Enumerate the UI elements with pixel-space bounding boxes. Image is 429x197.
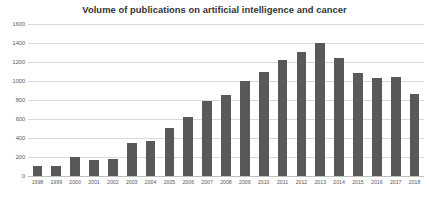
bar-slot [240, 24, 250, 176]
bar-slot [33, 24, 43, 176]
x-axis-tick-label: 2009 [235, 178, 254, 186]
bar[interactable] [165, 128, 175, 176]
y-axis-tick-label: 400 [0, 135, 25, 141]
bar[interactable] [297, 52, 307, 176]
bar[interactable] [70, 157, 80, 176]
y-axis-tick-label: 1600 [0, 21, 25, 27]
bar-slot [165, 24, 175, 176]
bar[interactable] [183, 117, 193, 176]
bar-slot [278, 24, 288, 176]
bar-slot [146, 24, 156, 176]
x-axis-tick-label: 2008 [217, 178, 236, 186]
bar[interactable] [89, 160, 99, 176]
x-axis-tick-label: 2012 [292, 178, 311, 186]
x-axis-tick-label: 2013 [311, 178, 330, 186]
x-axis-tick-label: 2000 [66, 178, 85, 186]
bar[interactable] [353, 73, 363, 176]
bar[interactable] [334, 58, 344, 176]
y-axis-tick-label: 1200 [0, 59, 25, 65]
bar-slot [89, 24, 99, 176]
bar[interactable] [127, 143, 137, 176]
bar[interactable] [146, 141, 156, 176]
bar[interactable] [372, 78, 382, 176]
bar-slot [353, 24, 363, 176]
bar-slot [297, 24, 307, 176]
y-axis-tick-label: 0 [0, 173, 25, 179]
y-axis-tick-label: 800 [0, 97, 25, 103]
x-axis-tick-label: 2006 [179, 178, 198, 186]
bar[interactable] [315, 43, 325, 176]
bar-chart: Volume of publications on artificial int… [0, 0, 429, 197]
y-axis-tick-label: 1000 [0, 78, 25, 84]
x-axis-tick-labels: 1998199920002001200220032004200520062007… [28, 178, 424, 192]
bar[interactable] [202, 101, 212, 176]
x-axis-tick-label: 2015 [349, 178, 368, 186]
plot-area [28, 24, 424, 176]
bar-slot [202, 24, 212, 176]
x-axis-tick-label: 2016 [367, 178, 386, 186]
bar[interactable] [108, 159, 118, 176]
y-axis-tick-label: 1400 [0, 40, 25, 46]
x-axis-tick-label: 1999 [47, 178, 66, 186]
bar[interactable] [221, 95, 231, 176]
bar-slot [108, 24, 118, 176]
bar-slot [334, 24, 344, 176]
y-axis-tick-label: 200 [0, 154, 25, 160]
bar-slot [372, 24, 382, 176]
bar-slot [315, 24, 325, 176]
bar[interactable] [33, 166, 43, 176]
bar-slot [410, 24, 420, 176]
x-axis-tick-label: 2003 [122, 178, 141, 186]
x-axis-tick-label: 2007 [198, 178, 217, 186]
x-axis-tick-label: 2004 [141, 178, 160, 186]
bar[interactable] [410, 94, 420, 176]
bar-slot [70, 24, 80, 176]
bar-slot [259, 24, 269, 176]
bar[interactable] [259, 72, 269, 176]
x-axis-tick-label: 2017 [386, 178, 405, 186]
x-axis-tick-label: 1998 [28, 178, 47, 186]
y-axis-tick-labels: 02004006008001000120014001600 [0, 24, 25, 176]
bar[interactable] [391, 77, 401, 176]
x-axis-tick-label: 2018 [405, 178, 424, 186]
y-axis-tick-label: 600 [0, 116, 25, 122]
bar[interactable] [240, 81, 250, 176]
x-axis-tick-label: 2011 [273, 178, 292, 186]
bar-slot [51, 24, 61, 176]
x-axis-tick-label: 2002 [103, 178, 122, 186]
bar[interactable] [51, 166, 61, 176]
bar[interactable] [278, 60, 288, 176]
x-axis-tick-label: 2001 [85, 178, 104, 186]
x-axis-tick-label: 2010 [254, 178, 273, 186]
bar-slot [183, 24, 193, 176]
bar-slot [127, 24, 137, 176]
chart-title: Volume of publications on artificial int… [0, 4, 429, 16]
x-axis-tick-label: 2005 [160, 178, 179, 186]
x-axis-tick-label: 2014 [330, 178, 349, 186]
bar-slot [391, 24, 401, 176]
bar-slot [221, 24, 231, 176]
